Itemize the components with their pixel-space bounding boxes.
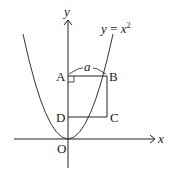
eq-exponent: 2 xyxy=(126,21,130,30)
origin-label: O xyxy=(57,141,66,156)
point-label-d: D xyxy=(56,110,65,125)
eq-equals: = xyxy=(107,21,121,36)
segment-label-a: a xyxy=(84,59,91,74)
curve-equation-label: y = x2 xyxy=(99,21,130,36)
x-axis-label: x xyxy=(157,131,164,146)
parabola-diagram: a A B C D O x y y = x2 xyxy=(0,0,177,176)
y-axis-label: y xyxy=(62,4,70,19)
right-angle-mark xyxy=(68,76,74,82)
point-label-c: C xyxy=(110,110,119,125)
point-label-a: A xyxy=(56,69,66,84)
point-label-b: B xyxy=(109,69,118,84)
